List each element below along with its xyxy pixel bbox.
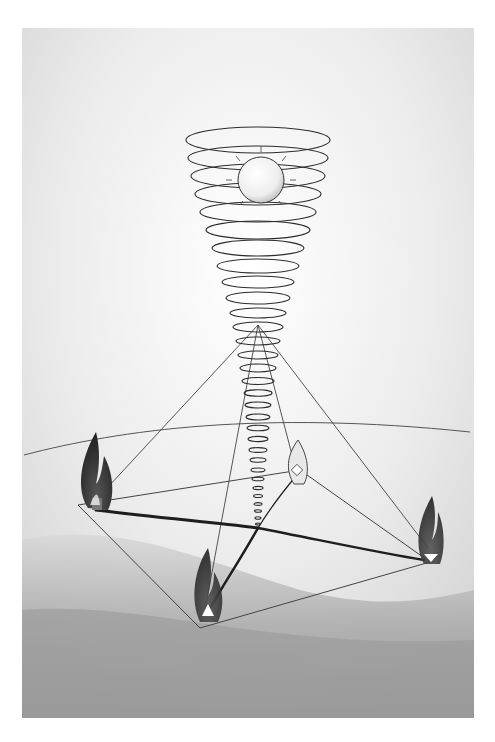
illustration (0, 0, 495, 742)
